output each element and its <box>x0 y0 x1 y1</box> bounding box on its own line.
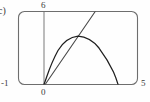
plot-canvas <box>0 0 150 102</box>
viewport-frame <box>19 12 138 85</box>
x-max-tick-label: 5 <box>141 79 146 88</box>
x-origin-tick-label: 0 <box>41 88 46 97</box>
parabola-curve <box>42 36 120 89</box>
x-min-tick-label: -1 <box>1 79 9 88</box>
tangent-line <box>40 6 99 92</box>
graph-figure: c) 6 -1 0 5 <box>0 0 150 102</box>
y-max-tick-label: 6 <box>41 1 46 10</box>
